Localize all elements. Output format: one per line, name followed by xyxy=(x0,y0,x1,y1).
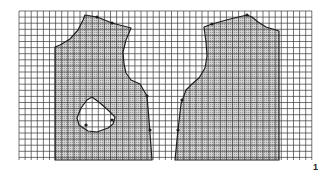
notch-marker xyxy=(110,21,113,24)
notch-marker xyxy=(245,13,248,16)
notch-marker xyxy=(148,128,151,131)
notch-marker xyxy=(110,118,113,121)
notch-marker xyxy=(176,128,179,131)
pattern-diagram xyxy=(0,0,328,176)
figure-number: 1 xyxy=(313,162,318,172)
notch-marker xyxy=(210,22,213,25)
notch-marker xyxy=(84,123,87,126)
notch-marker xyxy=(180,98,183,101)
notch-marker xyxy=(145,94,148,97)
notch-marker xyxy=(95,15,98,18)
